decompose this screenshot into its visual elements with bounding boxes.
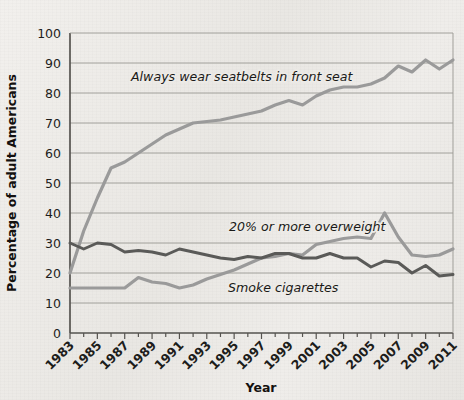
y-tick-label: 30 [45, 236, 61, 251]
y-tick-label: 40 [45, 206, 61, 221]
y-tick-label: 80 [45, 86, 61, 101]
x-tick-label: 2005 [343, 338, 378, 373]
x-tick-label: 2009 [398, 338, 433, 373]
data-series [70, 60, 453, 288]
y-tick-label: 70 [45, 116, 61, 131]
x-tick-label: 2007 [370, 338, 405, 373]
y-tick-label: 50 [45, 176, 61, 191]
x-tick-label: 1985 [69, 338, 104, 373]
y-tick-label: 90 [45, 56, 61, 71]
x-tick-label: 1993 [179, 338, 214, 373]
y-tick-label: 0 [53, 326, 61, 341]
annotation-label-1: Always wear seatbelts in front seat [130, 69, 354, 84]
x-tick-label: 1989 [124, 338, 159, 373]
x-tick-label: 2011 [425, 338, 460, 373]
chart-page: 0102030405060708090100 19831985198719891… [0, 0, 464, 400]
x-tick-marks [70, 333, 453, 339]
line-chart: 0102030405060708090100 19831985198719891… [0, 0, 464, 400]
x-tick-label: 2001 [288, 338, 323, 373]
x-tick-label: 1995 [206, 338, 241, 373]
x-tick-labels: 1983198519871989199119931995199719992001… [42, 338, 460, 373]
y-tick-label: 100 [37, 26, 61, 41]
x-tick-label: 1991 [151, 338, 186, 373]
x-tick-label: 1987 [97, 338, 132, 373]
series-line-1 [70, 60, 453, 273]
x-tick-label: 1999 [261, 338, 296, 373]
y-tick-label: 20 [45, 266, 61, 281]
x-tick-label: 1983 [42, 338, 77, 373]
gridlines [70, 63, 453, 303]
y-tick-label: 10 [45, 296, 61, 311]
y-tick-label: 60 [45, 146, 61, 161]
x-axis-title: Year [245, 380, 278, 395]
annotation-label-3: Smoke cigarettes [228, 280, 339, 295]
annotation-label-2: 20% or more overweight [229, 219, 386, 234]
y-tick-labels: 0102030405060708090100 [37, 26, 61, 341]
x-tick-label: 2003 [315, 338, 350, 373]
y-axis-title: Percentage of adult Americans [4, 74, 19, 292]
x-tick-label: 1997 [233, 338, 268, 373]
